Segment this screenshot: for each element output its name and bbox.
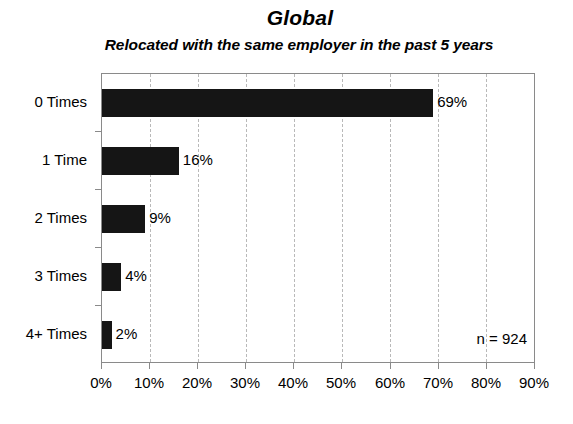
bar-value-3-times: 4% xyxy=(121,262,147,290)
x-axis-label-90: 90% xyxy=(504,374,564,391)
plot-area: 69% 16% 9% 4% 2% xyxy=(101,73,535,363)
x-axis-tick xyxy=(390,363,391,369)
bar-band-1: 16% xyxy=(102,132,534,190)
x-axis-tick xyxy=(341,363,342,369)
bar-value-0-times: 69% xyxy=(433,88,467,116)
x-axis-tick xyxy=(293,363,294,369)
bar-band-0: 69% xyxy=(102,74,534,132)
x-axis-tick xyxy=(486,363,487,369)
x-axis-tick xyxy=(101,363,102,369)
chart-figure: Global Relocated with the same employer … xyxy=(0,0,573,424)
y-axis-label-4: 4+ Times xyxy=(0,325,87,343)
y-axis-label-0: 0 Times xyxy=(0,93,87,111)
bar-2-times xyxy=(102,205,145,233)
x-axis-tick xyxy=(245,363,246,369)
bar-value-2-times: 9% xyxy=(145,204,171,232)
bar-band-2: 9% xyxy=(102,190,534,248)
y-axis-label-3: 3 Times xyxy=(0,267,87,285)
bar-0-times xyxy=(102,89,433,117)
bar-band-3: 4% xyxy=(102,248,534,306)
bar-value-4-plus-times: 2% xyxy=(112,320,138,348)
sample-size-annotation: n = 924 xyxy=(400,330,527,347)
bar-3-times xyxy=(102,263,121,291)
y-axis-label-1: 1 Time xyxy=(0,151,87,169)
bar-1-time xyxy=(102,147,179,175)
bar-value-1-time: 16% xyxy=(179,146,213,174)
chart-title: Global xyxy=(0,6,573,30)
y-axis-label-2: 2 Times xyxy=(0,209,87,227)
x-axis-tick xyxy=(149,363,150,369)
x-axis-tick xyxy=(438,363,439,369)
x-axis-tick xyxy=(197,363,198,369)
bar-4-plus-times xyxy=(102,321,112,349)
x-axis-tick xyxy=(534,363,535,369)
chart-subtitle: Relocated with the same employer in the … xyxy=(0,36,573,54)
